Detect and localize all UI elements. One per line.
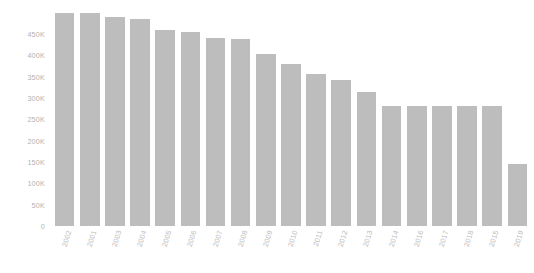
- y-axis-tick-label: 400K: [27, 51, 45, 60]
- x-axis-tick-label: 2007: [210, 229, 224, 248]
- x-axis-tick-slot: 2011: [304, 228, 329, 273]
- x-axis-tick-slot: 2013: [354, 228, 379, 273]
- x-axis-tick-slot: 2017: [429, 228, 454, 273]
- x-axis-tick-label: 2011: [311, 229, 325, 247]
- x-axis-tick-slot: 2002: [52, 228, 77, 273]
- bar[interactable]: [382, 106, 402, 226]
- bar-slot: [253, 4, 278, 226]
- bar-slot: [429, 4, 454, 226]
- y-axis-tick-label: 50K: [32, 200, 45, 209]
- x-axis-tick-label: 2017: [437, 229, 451, 248]
- bar[interactable]: [130, 19, 150, 226]
- x-axis-tick-label: 2012: [336, 229, 350, 248]
- bar-slot: [379, 4, 404, 226]
- bar[interactable]: [256, 54, 276, 226]
- bar-slot: [203, 4, 228, 226]
- bar[interactable]: [181, 32, 201, 226]
- bar-slot: [480, 4, 505, 226]
- bar-slot: [228, 4, 253, 226]
- x-axis-tick-label: 2002: [59, 229, 73, 248]
- x-axis-tick-slot: 2018: [455, 228, 480, 273]
- y-axis-tick-label: 200K: [27, 136, 45, 145]
- bar-chart: 050K100K150K200K250K300K350K400K450K 200…: [0, 0, 534, 273]
- bar-slot: [505, 4, 530, 226]
- x-axis-tick-label: 2004: [135, 229, 149, 248]
- bar[interactable]: [407, 106, 427, 226]
- x-axis-tick-label: 2008: [235, 229, 249, 248]
- bar-slot: [304, 4, 329, 226]
- x-axis-tick-label: 2013: [361, 229, 375, 248]
- x-axis-tick-label: 2009: [261, 229, 275, 248]
- y-axis: 050K100K150K200K250K300K350K400K450K: [0, 0, 52, 273]
- bar-slot: [278, 4, 303, 226]
- bar[interactable]: [482, 106, 502, 226]
- x-axis-tick-slot: 2006: [178, 228, 203, 273]
- bar[interactable]: [331, 80, 351, 226]
- bar[interactable]: [457, 106, 477, 226]
- x-axis-tick-label: 2015: [487, 229, 501, 248]
- x-axis-tick-slot: 2010: [278, 228, 303, 273]
- bar[interactable]: [281, 64, 301, 226]
- bar[interactable]: [155, 30, 175, 226]
- bar-slot: [329, 4, 354, 226]
- x-axis-tick-slot: 2009: [253, 228, 278, 273]
- bar-slot: [404, 4, 429, 226]
- bar[interactable]: [105, 17, 125, 226]
- y-axis-tick-label: 300K: [27, 93, 45, 102]
- x-axis-tick-slot: 2014: [379, 228, 404, 273]
- x-axis-tick-label: 2016: [412, 229, 426, 248]
- bar[interactable]: [508, 164, 528, 226]
- y-axis-tick-label: 350K: [27, 72, 45, 81]
- bar[interactable]: [306, 74, 326, 226]
- x-axis-tick-slot: 2008: [228, 228, 253, 273]
- x-axis-tick-label: 2005: [160, 229, 174, 248]
- bar[interactable]: [206, 38, 226, 226]
- bar-slot: [127, 4, 152, 226]
- bar-slot: [52, 4, 77, 226]
- x-axis-tick-slot: 2007: [203, 228, 228, 273]
- plot-area: [52, 4, 530, 226]
- y-axis-tick-label: 0: [41, 222, 45, 231]
- x-axis-tick-label: 2001: [85, 229, 99, 248]
- x-axis-tick-slot: 2019: [505, 228, 530, 273]
- x-axis-tick-label: 2018: [462, 229, 476, 248]
- bar-slot: [102, 4, 127, 226]
- x-axis-tick-slot: 2015: [480, 228, 505, 273]
- bar[interactable]: [432, 106, 452, 226]
- bar-slot: [153, 4, 178, 226]
- bar[interactable]: [357, 92, 377, 226]
- bar[interactable]: [55, 13, 75, 226]
- x-axis-tick-label: 2006: [185, 229, 199, 248]
- y-axis-tick-label: 250K: [27, 115, 45, 124]
- x-axis-tick-slot: 2012: [329, 228, 354, 273]
- x-axis-tick-label: 2019: [512, 229, 526, 248]
- x-axis-tick-slot: 2005: [153, 228, 178, 273]
- x-axis-tick-slot: 2004: [127, 228, 152, 273]
- x-axis-tick-label: 2003: [110, 229, 124, 248]
- bar-slot: [354, 4, 379, 226]
- x-axis-tick-slot: 2016: [404, 228, 429, 273]
- x-axis-tick-slot: 2001: [77, 228, 102, 273]
- x-axis-tick-slot: 2003: [102, 228, 127, 273]
- y-axis-tick-label: 450K: [27, 29, 45, 38]
- y-axis-tick-label: 100K: [27, 179, 45, 188]
- x-axis-tick-label: 2010: [286, 229, 300, 248]
- x-axis-tick-label: 2014: [386, 229, 400, 248]
- bar[interactable]: [231, 39, 251, 226]
- bar[interactable]: [80, 13, 100, 226]
- bar-slot: [455, 4, 480, 226]
- bar-series: [52, 4, 530, 226]
- x-axis: 2002200120032004200520062007200820092010…: [52, 228, 530, 273]
- bar-slot: [178, 4, 203, 226]
- y-axis-tick-label: 150K: [27, 157, 45, 166]
- bar-slot: [77, 4, 102, 226]
